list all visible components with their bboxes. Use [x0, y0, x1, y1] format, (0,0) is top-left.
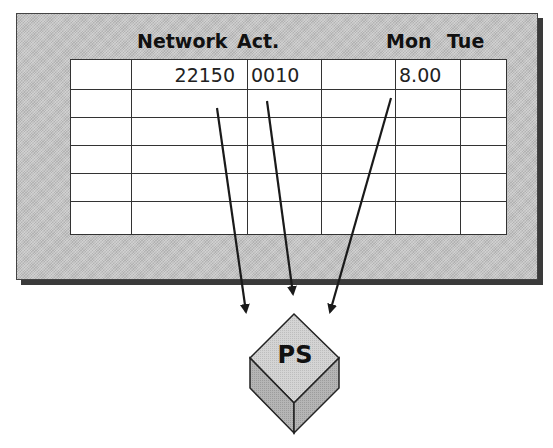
ps-label: PS	[270, 341, 320, 369]
arrow-network	[217, 108, 246, 312]
diagram-overlay	[0, 0, 553, 448]
ps-cube-icon	[250, 314, 339, 433]
arrow-mon	[330, 98, 391, 312]
arrow-activity	[267, 101, 293, 294]
